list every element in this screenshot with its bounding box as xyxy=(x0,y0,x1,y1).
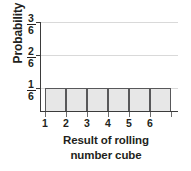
y-tick-label-1-6: 1 6 xyxy=(24,79,38,102)
bar-2 xyxy=(66,88,87,112)
x-tick-label-6: 6 xyxy=(139,117,161,129)
y-tick-denominator: 6 xyxy=(24,58,38,69)
bar-6 xyxy=(150,88,171,112)
x-axis-title-line-2: number cube xyxy=(26,148,186,163)
probability-bar-chart: Probability 3 6 2 6 1 6 xyxy=(0,0,191,171)
x-axis-title-line-1: Result of rolling xyxy=(26,133,186,148)
y-tick-label-3-6: 3 6 xyxy=(24,13,38,36)
bar-5 xyxy=(129,88,150,112)
x-tick-label-5: 5 xyxy=(118,117,140,129)
x-axis-line xyxy=(40,111,178,112)
plot-area xyxy=(40,22,178,112)
x-tick-label-4: 4 xyxy=(97,117,119,129)
gridline-2-6 xyxy=(40,55,178,56)
bar-3 xyxy=(87,88,108,112)
y-tick-denominator: 6 xyxy=(24,25,38,36)
x-axis-title: Result of rolling number cube xyxy=(26,133,186,163)
x-tick-label-1: 1 xyxy=(34,117,56,129)
y-axis-title: Probability xyxy=(11,0,25,81)
x-tick-mark-6 xyxy=(171,112,172,117)
x-tick-label-3: 3 xyxy=(76,117,98,129)
y-tick-denominator: 6 xyxy=(24,91,38,102)
y-tick-label-2-6: 2 6 xyxy=(24,46,38,69)
bar-1 xyxy=(45,88,66,112)
y-axis-line xyxy=(40,22,41,112)
bar-4 xyxy=(108,88,129,112)
x-tick-label-2: 2 xyxy=(55,117,77,129)
gridline-3-6 xyxy=(40,22,178,23)
